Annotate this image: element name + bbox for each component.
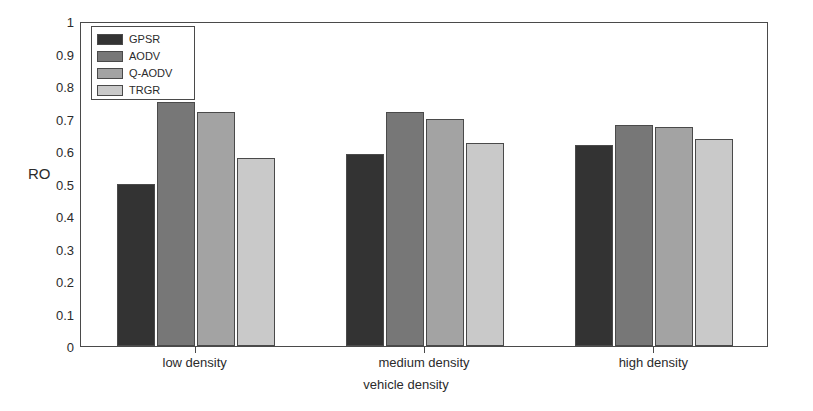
bar-gpsr-low-density <box>117 184 155 347</box>
x-tick-label: high density <box>619 355 688 370</box>
legend-item-trgr[interactable]: TRGR <box>97 82 189 98</box>
x-axis-tick <box>653 347 654 353</box>
legend-label: TRGR <box>129 85 160 96</box>
legend-label: AODV <box>129 51 160 62</box>
y-tick-label: 0.7 <box>56 112 74 127</box>
legend-swatch-trgr <box>97 85 123 96</box>
y-tick-label: 0.9 <box>56 47 74 62</box>
bar-q-aodv-high-density <box>655 127 693 346</box>
y-tick-label: 0.8 <box>56 80 74 95</box>
legend-label: GPSR <box>129 34 160 45</box>
bar-gpsr-medium-density <box>346 154 384 346</box>
bar-q-aodv-low-density <box>197 112 235 346</box>
x-axis-label: vehicle density <box>363 377 448 392</box>
legend-item-gpsr[interactable]: GPSR <box>97 31 189 47</box>
bar-aodv-medium-density <box>386 112 424 346</box>
legend-swatch-aodv <box>97 51 123 62</box>
bar-trgr-high-density <box>695 139 733 346</box>
legend-label: Q-AODV <box>129 68 172 79</box>
legend-swatch-q-aodv <box>97 68 123 79</box>
bar-aodv-low-density <box>157 102 195 346</box>
x-axis-tick <box>195 347 196 353</box>
y-axis-label: RO <box>28 165 51 182</box>
x-tick-label: medium density <box>378 355 469 370</box>
y-tick-label: 0.3 <box>56 242 74 257</box>
y-tick-label: 0 <box>67 340 74 355</box>
bar-aodv-high-density <box>615 125 653 346</box>
legend-item-q-aodv[interactable]: Q-AODV <box>97 65 189 81</box>
legend-item-aodv[interactable]: AODV <box>97 48 189 64</box>
legend: GPSRAODVQ-AODVTRGR <box>91 26 195 100</box>
x-axis-tick <box>424 347 425 353</box>
legend-swatch-gpsr <box>97 34 123 45</box>
y-tick-label: 0.4 <box>56 210 74 225</box>
y-tick-label: 1 <box>67 15 74 30</box>
x-tick-label: low density <box>163 355 227 370</box>
y-tick-label: 0.2 <box>56 275 74 290</box>
y-tick-label: 0.1 <box>56 307 74 322</box>
bar-trgr-medium-density <box>466 143 504 346</box>
bar-trgr-low-density <box>237 158 275 347</box>
y-tick-label: 0.6 <box>56 145 74 160</box>
y-tick-label: 0.5 <box>56 177 74 192</box>
bar-chart-figure: 00.10.20.30.40.50.60.70.80.91 RO low den… <box>0 0 813 411</box>
bar-q-aodv-medium-density <box>426 119 464 347</box>
bar-gpsr-high-density <box>575 145 613 347</box>
